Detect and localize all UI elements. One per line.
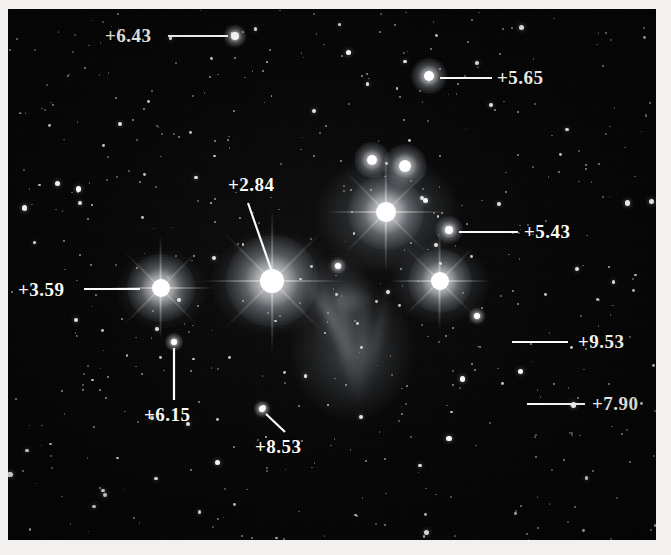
- magnitude-label-mag-8-53: +8.53: [255, 437, 302, 456]
- magnitude-label-mag-9-53: +9.53: [578, 332, 625, 351]
- magnitude-label-mag-6-15: +6.15: [144, 405, 191, 424]
- magnitude-label-mag-6-43: +6.43: [105, 26, 152, 45]
- magnitude-label-layer: +6.43+5.65+2.84+5.43+3.59+9.53+7.90+6.15…: [8, 9, 656, 540]
- magnitude-label-mag-3-59: +3.59: [18, 280, 65, 299]
- magnitude-label-mag-5-65: +5.65: [497, 68, 544, 87]
- astrophoto-figure: +6.43+5.65+2.84+5.43+3.59+9.53+7.90+6.15…: [0, 0, 671, 555]
- photographic-plate: +6.43+5.65+2.84+5.43+3.59+9.53+7.90+6.15…: [8, 9, 656, 540]
- magnitude-label-mag-7-90: +7.90: [592, 394, 639, 413]
- magnitude-label-mag-2-84: +2.84: [228, 175, 275, 194]
- magnitude-label-mag-5-43: +5.43: [524, 222, 571, 241]
